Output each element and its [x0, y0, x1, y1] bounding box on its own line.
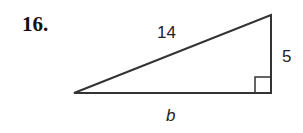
- right-angle-marker: [255, 77, 271, 93]
- vertical-leg-label: 5: [282, 47, 291, 67]
- right-triangle: [0, 0, 303, 133]
- hypotenuse-label: 14: [157, 23, 176, 43]
- base-label: b: [166, 106, 175, 126]
- problem-diagram: 16. 14 5 b: [0, 0, 303, 133]
